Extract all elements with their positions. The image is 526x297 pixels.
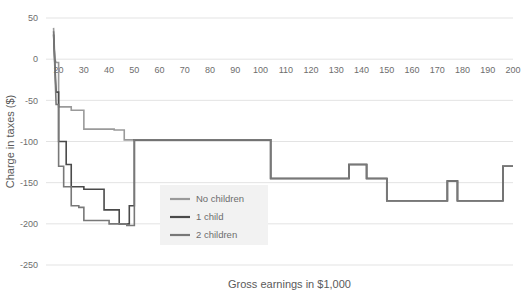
x-tick-label: 30 [79, 65, 89, 75]
legend-label: 1 child [196, 211, 223, 222]
x-tick-label: 80 [205, 65, 215, 75]
y-tick-label: -250 [20, 260, 38, 270]
series-group [54, 28, 513, 226]
series-line [54, 28, 513, 201]
legend: No children1 child2 children [160, 185, 268, 245]
y-tick-label: -100 [20, 137, 38, 147]
x-tick-label: 100 [253, 65, 268, 75]
x-tick-label: 130 [329, 65, 344, 75]
x-tick-label: 150 [379, 65, 394, 75]
y-axis-title: Charge in taxes ($) [4, 95, 16, 189]
x-tick-label: 50 [129, 65, 139, 75]
x-tick-label: 180 [455, 65, 470, 75]
x-axis-tick-labels: 2030405060708090100110120130140150160170… [54, 65, 521, 75]
x-tick-label: 120 [304, 65, 319, 75]
x-tick-label: 90 [230, 65, 240, 75]
x-tick-label: 190 [480, 65, 495, 75]
x-tick-label: 40 [104, 65, 114, 75]
legend-label: No children [196, 193, 244, 204]
x-tick-label: 200 [505, 65, 520, 75]
x-axis-title: Gross earnings in $1,000 [228, 278, 351, 290]
y-tick-label: -200 [20, 219, 38, 229]
y-axis-tick-labels: 500-50-100-150-200-250 [20, 13, 38, 270]
legend-label: 2 children [196, 229, 237, 240]
tax-charge-line-chart: 500-50-100-150-200-250203040506070809010… [0, 0, 526, 297]
x-tick-label: 60 [155, 65, 165, 75]
x-tick-label: 160 [405, 65, 420, 75]
series-line [54, 31, 513, 225]
y-tick-label: -50 [25, 96, 38, 106]
x-tick-label: 110 [279, 65, 293, 75]
y-tick-label: -150 [20, 178, 38, 188]
series-line [54, 34, 513, 223]
chart-canvas: 500-50-100-150-200-250203040506070809010… [0, 0, 526, 297]
x-tick-label: 70 [180, 65, 190, 75]
x-tick-label: 170 [430, 65, 445, 75]
gridlines [46, 18, 513, 265]
y-tick-label: 0 [33, 54, 38, 64]
x-tick-label: 140 [354, 65, 369, 75]
y-tick-label: 50 [28, 13, 38, 23]
